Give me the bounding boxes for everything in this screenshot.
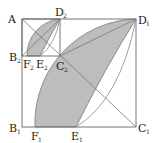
label-B1: B 1 [9,122,21,135]
label-E1: E 1 [71,130,83,143]
label-E2: E 2 [36,58,48,71]
svg-text:2: 2 [30,64,34,71]
label-F2: F 2 [23,58,34,71]
geometry-figure: A D 2 D 1 B 2 F 2 E 2 C 2 B 1 F 1 E 1 C … [0,0,156,143]
svg-text:1: 1 [146,20,150,27]
svg-text:2: 2 [17,57,21,64]
svg-text:2: 2 [64,66,68,73]
svg-text:B: B [9,122,17,135]
svg-text:1: 1 [146,128,150,135]
label-D2: D 2 [55,6,67,19]
svg-text:B: B [9,51,17,64]
svg-text:E: E [71,130,79,143]
svg-text:E: E [36,58,44,71]
label-F1: F 1 [31,130,42,143]
svg-text:A: A [7,13,17,26]
svg-text:1: 1 [38,136,42,143]
label-A: A [7,13,17,26]
svg-text:1: 1 [17,128,21,135]
svg-text:2: 2 [44,64,48,71]
label-D1: D 1 [138,14,150,27]
svg-text:2: 2 [63,12,67,19]
svg-text:1: 1 [79,136,83,143]
label-C1: C 1 [138,122,150,135]
label-B2: B 2 [9,51,21,64]
